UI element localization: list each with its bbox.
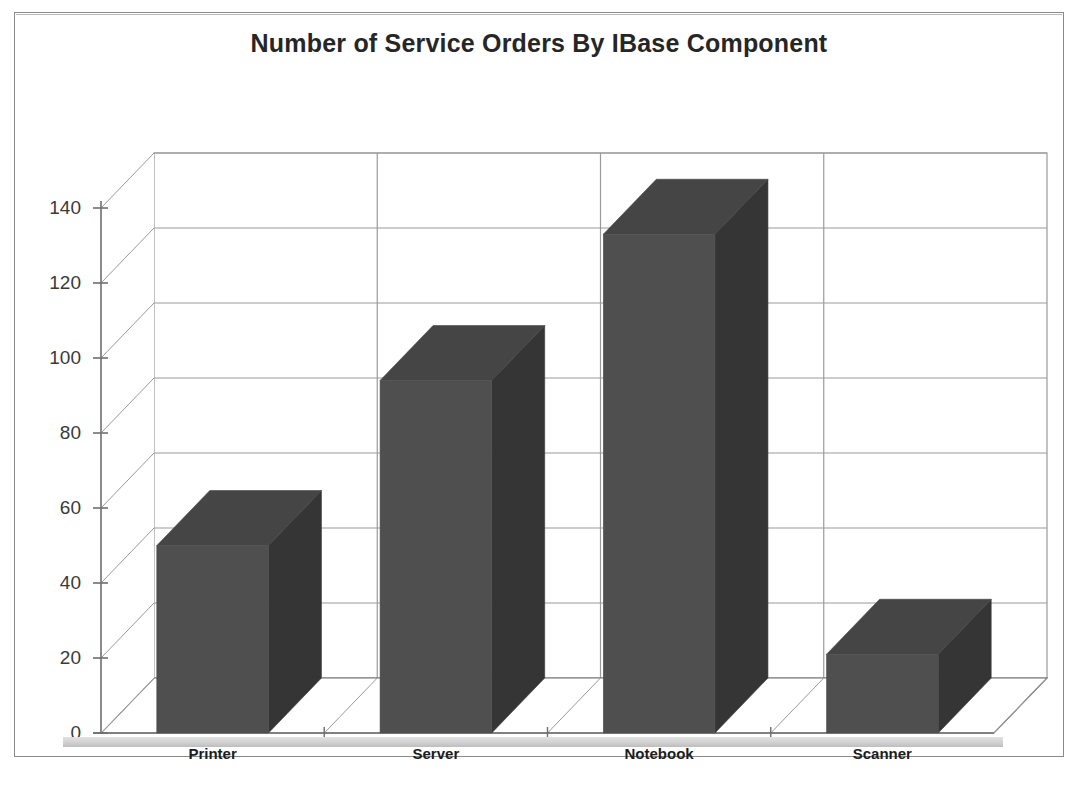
bar-front-face [157, 546, 269, 734]
bar-front-face [827, 654, 939, 733]
x-axis-category-label: Scanner [771, 745, 994, 762]
plot-canvas [15, 13, 1065, 758]
x-axis-category-label: Notebook [548, 745, 771, 762]
y-axis-tick-label: 60 [25, 497, 81, 519]
x-axis-category-label: Server [324, 745, 547, 762]
y-axis-tick-label: 140 [25, 197, 81, 219]
bar-printer[interactable] [157, 491, 322, 734]
plot-area: 020406080100120140 PrinterServerNotebook… [15, 13, 1065, 758]
bar-side-face [492, 326, 545, 734]
y-axis-tick-label: 20 [25, 647, 81, 669]
x-axis-category-label: Printer [101, 745, 324, 762]
chart-frame: Number of Service Orders By IBase Compon… [14, 12, 1064, 757]
chart-page: Number of Service Orders By IBase Compon… [0, 0, 1083, 789]
y-axis-tick-label: 120 [25, 272, 81, 294]
y-axis-tick-label: 40 [25, 572, 81, 594]
bar-front-face [603, 234, 715, 733]
left-wall [101, 153, 154, 733]
bar-front-face [380, 381, 492, 734]
bar-side-face [715, 179, 768, 733]
floor-shadow-band [63, 737, 1003, 747]
bar-notebook[interactable] [603, 179, 768, 733]
y-axis-tick-label: 100 [25, 347, 81, 369]
y-axis-tick-label: 80 [25, 422, 81, 444]
bar-server[interactable] [380, 326, 545, 734]
